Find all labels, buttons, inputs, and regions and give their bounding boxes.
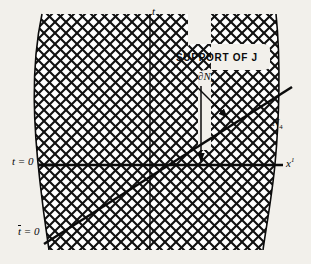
region-n4-hatching bbox=[0, 0, 311, 264]
axis-label-x1-superscript: 1 bbox=[291, 156, 294, 163]
label-tbar-rest: = 0 bbox=[21, 225, 39, 237]
label-region-n4-subscript: 4 bbox=[279, 123, 282, 130]
label-support-of-j: SUPPORT OF J bbox=[176, 53, 258, 63]
label-tbar-equals-zero: t = 0 bbox=[18, 226, 40, 237]
diagram-svg bbox=[0, 0, 311, 264]
label-region-n4: N4 bbox=[272, 117, 283, 131]
axis-label-x1: x1 bbox=[286, 157, 294, 169]
label-tbar-symbol: t bbox=[18, 226, 21, 237]
axis-label-t: t bbox=[152, 6, 155, 17]
label-boundary-n4-symbol: ∂N bbox=[198, 70, 211, 82]
label-t-equals-zero: t = 0 bbox=[12, 156, 33, 167]
label-boundary-n4: ∂N4 bbox=[198, 71, 214, 85]
figure-canvas: t x1 t = 0 t = 0 SUPPORT OF J ∂N4 N4 bbox=[0, 0, 311, 264]
label-boundary-n4-subscript: 4 bbox=[211, 77, 214, 84]
